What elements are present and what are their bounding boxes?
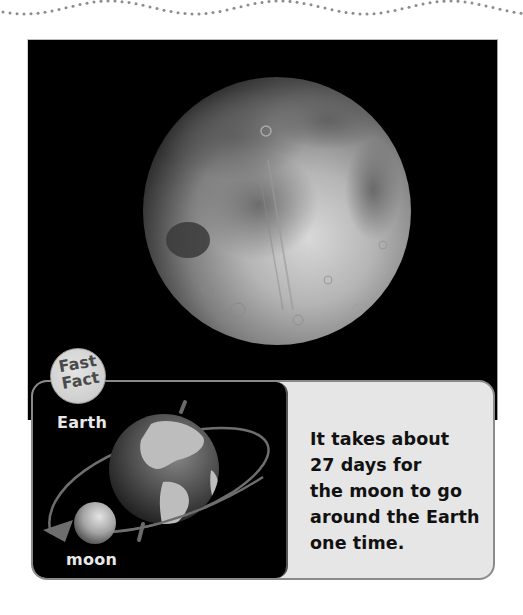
fact-line-1: It takes about — [310, 426, 490, 452]
fast-fact-badge: Fast Fact — [50, 348, 106, 404]
fast-fact-panel: Earth moon It takes about 27 days for th… — [31, 380, 495, 580]
dotted-wave-border — [0, 0, 523, 20]
moon-sphere-icon — [74, 502, 116, 544]
earth-label: Earth — [57, 413, 107, 432]
moon-label: moon — [66, 550, 117, 569]
fact-line-3: the moon to go — [310, 478, 490, 504]
earth-axis — [181, 402, 185, 412]
earth-globe-icon — [109, 414, 219, 530]
earth-moon-diagram: Earth moon — [33, 382, 288, 578]
orbit-arrow-icon — [43, 520, 73, 542]
fast-fact-text: It takes about 27 days for the moon to g… — [310, 426, 490, 556]
fact-line-5: one time. — [310, 530, 490, 556]
fact-line-4: around the Earth — [310, 504, 490, 530]
fact-line-2: 27 days for — [310, 452, 490, 478]
